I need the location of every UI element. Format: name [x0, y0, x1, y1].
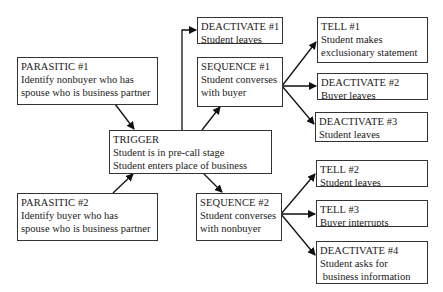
- node-title: TRIGGER: [113, 133, 268, 146]
- node-deactivate2: DEACTIVATE #2 Buyer leaves: [317, 73, 428, 100]
- node-title: DEACTIVATE #3: [319, 115, 424, 128]
- edge-trigger-sequence2: [203, 173, 222, 192]
- node-sequence1: SEQUENCE #1 Student converses with buyer: [197, 57, 283, 107]
- node-title: TELL #3: [320, 203, 424, 216]
- node-text: Student converses: [201, 73, 279, 86]
- edge-sequence1-deactivate3: [282, 86, 314, 124]
- node-deactivate1: DEACTIVATE #1 Student leaves: [197, 17, 283, 44]
- node-text: Student asks for: [320, 257, 424, 270]
- node-title: SEQUENCE #1: [201, 60, 279, 73]
- node-title: DEACTIVATE #4: [320, 244, 424, 257]
- node-text: exclusionary statement: [321, 46, 424, 59]
- node-text: Identify buyer who has: [21, 209, 154, 222]
- node-text: Student converses: [200, 209, 278, 222]
- edge-sequence2-tell2: [281, 174, 315, 214]
- edge-sequence1-tell1: [282, 42, 316, 86]
- node-text: Student enters place of business: [113, 159, 268, 172]
- node-tell1: TELL #1 Student makes exclusionary state…: [317, 17, 428, 63]
- node-parasitic1: PARASITIC #1 Identify nonbuyer who has s…: [17, 57, 158, 105]
- node-text: Student leaves: [201, 33, 279, 44]
- node-title: PARASITIC #1: [21, 60, 154, 73]
- node-text: with buyer: [201, 86, 279, 99]
- node-title: TELL #1: [321, 20, 424, 33]
- edge-sequence2-deactivate4: [281, 214, 315, 255]
- node-title: SEQUENCE #2: [200, 196, 278, 209]
- node-deactivate3: DEACTIVATE #3 Student leaves: [315, 112, 428, 142]
- node-title: PARASITIC #2: [21, 196, 154, 209]
- node-text: Identify nonbuyer who has: [21, 73, 154, 86]
- node-title: DEACTIVATE #2: [321, 76, 424, 89]
- node-text: Student leaves: [320, 176, 424, 187]
- node-tell2: TELL #2 Student leaves: [316, 160, 428, 187]
- node-deactivate4: DEACTIVATE #4 Student asks for business …: [316, 241, 428, 284]
- node-title: TELL #2: [320, 163, 424, 176]
- node-parasitic2: PARASITIC #2 Identify buyer who has spou…: [17, 193, 158, 241]
- node-text: Buyer leaves: [321, 89, 424, 100]
- edge-parasitic1-trigger: [115, 104, 134, 129]
- node-text: Student makes: [321, 33, 424, 46]
- node-text: Student is in pre-call stage: [113, 146, 268, 159]
- edge-trigger-deactivate1: [182, 30, 196, 130]
- node-trigger: TRIGGER Student is in pre-call stage Stu…: [109, 130, 272, 174]
- node-title: DEACTIVATE #1: [201, 20, 279, 33]
- node-text: spouse who is business partner: [21, 222, 154, 235]
- node-sequence2: SEQUENCE #2 Student converses with nonbu…: [196, 193, 282, 241]
- node-text: Student leaves: [319, 128, 424, 141]
- node-text: with nonbuyer: [200, 222, 278, 235]
- edge-parasitic2-trigger: [113, 174, 133, 193]
- node-text: Buyer interrupts: [320, 216, 424, 227]
- node-tell3: TELL #3 Buyer interrupts: [316, 200, 428, 227]
- edge-trigger-sequence1: [202, 107, 220, 130]
- node-text: business information: [320, 270, 424, 283]
- node-text: spouse who is business partner: [21, 86, 154, 99]
- flow-diagram: PARASITIC #1 Identify nonbuyer who has s…: [0, 0, 443, 292]
